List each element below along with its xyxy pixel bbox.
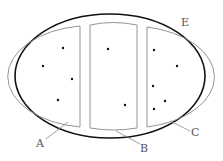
region-a (0, 0, 80, 160)
label-e: E (181, 16, 189, 29)
dots-region-b (107, 48, 126, 106)
label-c: C (191, 126, 199, 139)
leader-line-c (170, 121, 190, 131)
region-b-outline (90, 23, 137, 131)
label-a: A (35, 137, 45, 150)
dots-region-a (42, 47, 73, 101)
label-b: B (140, 142, 148, 155)
dots-region-c (152, 49, 178, 110)
region-a-outline (8, 26, 80, 127)
ellipse-region-diagram: E A B C (0, 0, 223, 161)
